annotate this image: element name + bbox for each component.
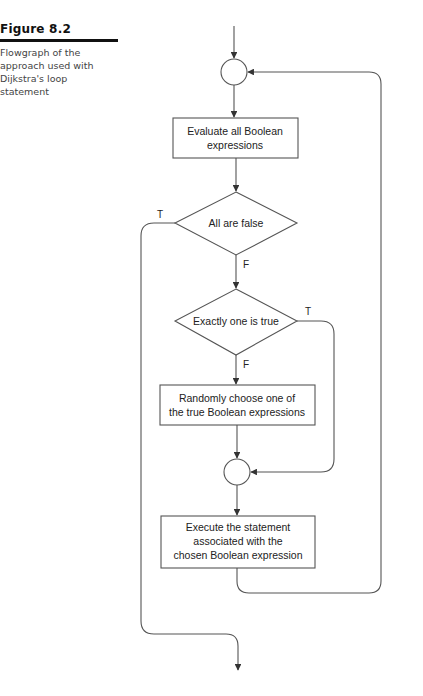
choose-box	[160, 385, 315, 425]
evaluate-box	[173, 118, 298, 158]
exactly-one-label: Exactly one is true	[193, 315, 279, 327]
execute-label-line2: associated with the	[193, 535, 282, 547]
exactly-one-true-label: T	[305, 306, 311, 317]
exit-path-t	[141, 223, 238, 670]
all-false-false-label: F	[243, 259, 249, 270]
execute-label-line1: Execute the statement	[186, 521, 291, 533]
all-false-true-label: T	[157, 209, 163, 220]
exactly-one-false-label: F	[243, 359, 249, 370]
all-false-label: All are false	[209, 217, 264, 229]
evaluate-label-line2: expressions	[207, 139, 263, 151]
choose-label-line2: the true Boolean expressions	[169, 406, 305, 418]
execute-label-line3: chosen Boolean expression	[173, 549, 302, 561]
junction-circle-bottom	[224, 459, 250, 485]
junction-circle-top	[221, 59, 247, 85]
flowchart: Evaluate all Boolean expressions All are…	[0, 0, 423, 696]
evaluate-label-line1: Evaluate all Boolean	[187, 125, 283, 137]
choose-label-line1: Randomly choose one of	[179, 392, 295, 404]
